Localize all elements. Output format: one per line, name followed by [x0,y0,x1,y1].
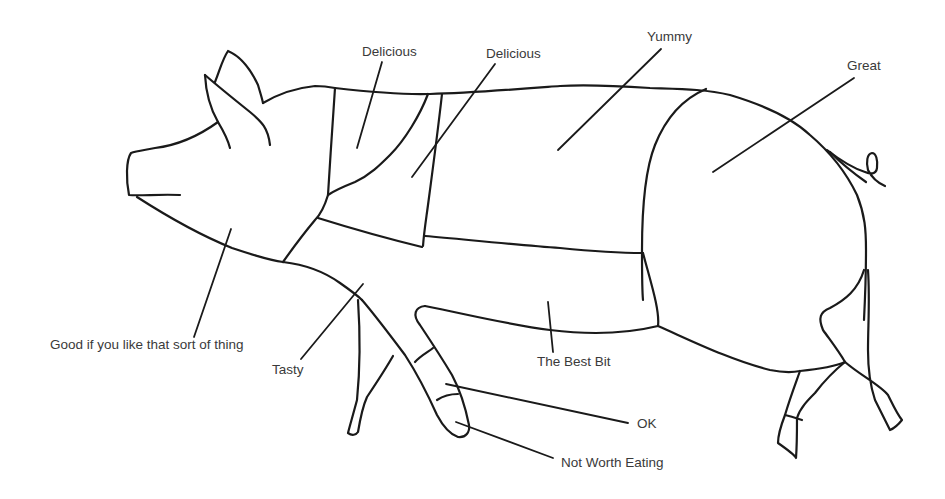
label-trotter-ok: OK [637,417,657,431]
leader-neck [357,62,382,148]
front-leg-near [362,300,469,437]
front-leg-far [348,300,393,435]
leader-loin [558,49,661,150]
shoulder-lower [318,218,422,247]
tail [827,150,885,186]
head-outline [127,86,362,300]
label-shoulder-delicious: Delicious [486,47,541,61]
label-head-good: Good if you like that sort of thing [50,338,244,352]
label-trotter-not-worth-eating: Not Worth Eating [561,456,664,470]
leader-belly [548,302,553,352]
label-front-leg-tasty: Tasty [272,363,304,377]
label-ham-great: Great [847,59,881,73]
trotter-divider-upper [415,348,433,362]
trotter-divider-lower [437,394,458,400]
pig-cuts-diagram [0,0,945,499]
belly-upper [425,236,643,253]
neck-divider [283,88,335,262]
ears [205,51,270,148]
shoulder-divider [423,94,442,246]
label-belly-best-bit: The Best Bit [537,355,611,369]
label-loin-yummy: Yummy [647,30,692,44]
leader-lines [194,49,854,458]
leader-head [194,229,231,337]
leader-shoulder-top [412,64,495,177]
loin-ham-divider [642,89,706,300]
belly-lower [425,253,658,333]
leader-trotter-upper [446,384,628,423]
leader-front-leg [301,284,363,359]
leader-trotter-lower [456,422,553,458]
label-neck-delicious: Delicious [362,45,417,59]
shoulder-curve [328,94,428,195]
